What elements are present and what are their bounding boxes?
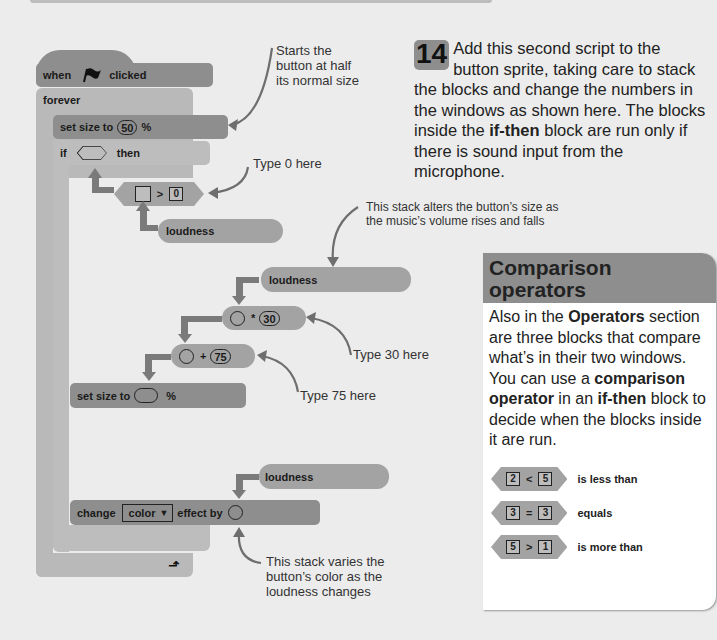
card-title: Comparison operators [483, 253, 716, 303]
annotation-type-30: Type 30 here [353, 347, 429, 362]
equals-example: 3 = 3 equals [491, 501, 612, 525]
more-than-label: is more than [577, 541, 642, 553]
less-than-block: 2 < 5 [491, 467, 567, 491]
less-than-example: 2 < 5 is less than [491, 467, 637, 491]
alters-pointer-arrow [333, 207, 358, 262]
starts-pointer-arrow [232, 48, 272, 125]
type75-pointer-arrow [262, 356, 298, 392]
type30-pointer-arrow [311, 318, 351, 355]
equals-block: 3 = 3 [491, 501, 567, 525]
card-body: Also in the Operators section are three … [483, 303, 716, 455]
annotation-type-0: Type 0 here [253, 156, 322, 171]
more-than-block: 5 > 1 [491, 535, 567, 559]
annotation-starts: Starts the button at half its normal siz… [276, 43, 359, 88]
more-than-example: 5 > 1 is more than [491, 535, 643, 559]
annotation-varies: This stack varies the button’s color as … [266, 554, 385, 599]
annotation-type-75: Type 75 here [300, 388, 376, 403]
comparison-operators-card: Comparison operators Also in the Operato… [483, 253, 716, 610]
annotation-alters: This stack alters the button’s size as t… [366, 200, 559, 228]
equals-label: equals [577, 507, 612, 519]
less-than-label: is less than [577, 473, 637, 485]
